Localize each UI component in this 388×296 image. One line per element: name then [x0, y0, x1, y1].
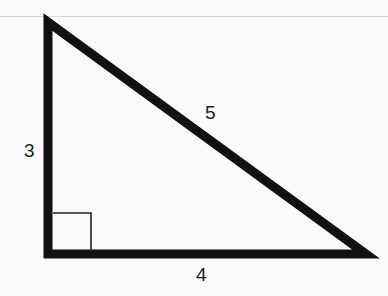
- triangle-figure: [0, 0, 388, 296]
- side-label-hypotenuse: 5: [205, 102, 216, 124]
- side-label-horizontal: 4: [196, 264, 207, 286]
- right-triangle: [48, 22, 366, 254]
- right-angle-marker: [53, 213, 91, 251]
- side-label-vertical: 3: [24, 140, 35, 162]
